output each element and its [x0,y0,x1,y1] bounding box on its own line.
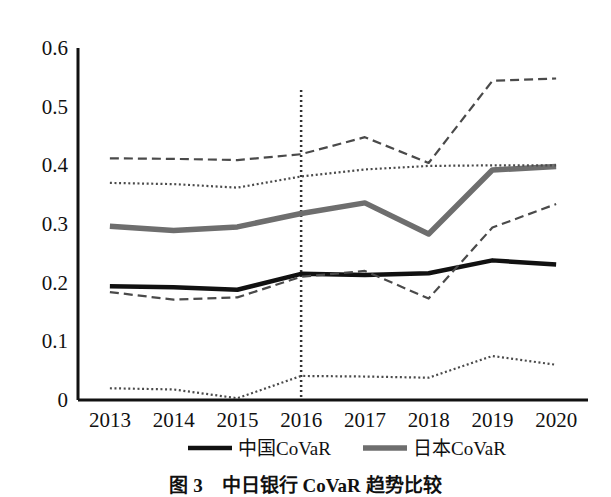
axes [78,48,588,400]
x-tick-label: 2019 [471,408,513,432]
figure-caption: 图 3 中日银行 CoVaR 趋势比较 [0,470,611,497]
series-line-upper-dashed-band [110,79,556,163]
y-tick-label: 0.3 [42,212,68,236]
series-line-日本CoVaR [110,167,556,234]
x-tick-label: 2016 [280,408,322,432]
series-line-中国CoVaR [110,260,556,289]
x-axis-tick-labels: 20132014201520162017201820192020 [89,408,577,432]
x-tick-label: 2014 [153,408,196,432]
x-tick-label: 2017 [344,408,386,432]
x-tick-label: 2015 [216,408,258,432]
y-tick-label: 0.4 [42,153,69,177]
x-tick-label: 2018 [408,408,450,432]
y-axis-tick-labels: 00.10.20.30.40.50.6 [42,36,69,412]
line-chart: 00.10.20.30.40.50.6 20132014201520162017… [0,0,611,460]
x-tick-label: 2013 [89,408,131,432]
legend-label-1: 日本CoVaR [413,438,506,459]
y-tick-label: 0 [58,388,69,412]
y-tick-label: 0.2 [42,271,68,295]
y-tick-label: 0.5 [42,95,68,119]
legend-label-0: 中国CoVaR [238,438,331,459]
y-tick-label: 0.6 [42,36,68,60]
series-line-lower-dotted-band [110,356,556,398]
chart-series-layer [110,79,556,399]
y-tick-label: 0.1 [42,329,68,353]
x-tick-label: 2020 [535,408,577,432]
chart-legend: 中国CoVaR日本CoVaR [188,438,506,459]
